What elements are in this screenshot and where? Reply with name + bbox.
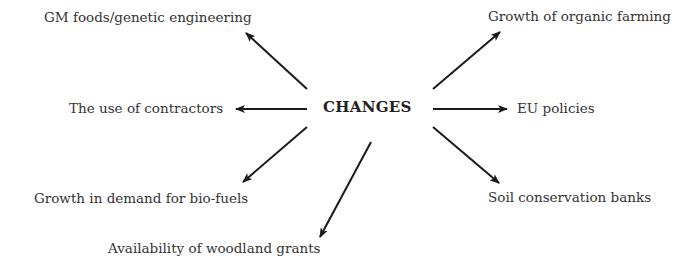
node-contractors: The use of contractors	[69, 102, 223, 116]
arrow-to-organic	[433, 32, 500, 89]
node-gm-foods: GM foods/genetic engineering	[44, 11, 252, 25]
center-node-changes: CHANGES	[323, 100, 412, 115]
node-eu-policies: EU policies	[517, 102, 595, 116]
node-soil-conservation: Soil conservation banks	[488, 191, 651, 205]
node-bio-fuels: Growth in demand for bio-fuels	[34, 192, 248, 206]
node-organic-farming: Growth of organic farming	[488, 10, 671, 24]
node-woodland-grants: Availability of woodland grants	[108, 242, 321, 256]
arrow-to-gm	[246, 33, 307, 89]
arrow-to-biofuels	[243, 127, 307, 182]
arrow-to-woodland	[320, 142, 371, 237]
mind-map-diagram: CHANGES GM foods/genetic engineering The…	[0, 0, 700, 270]
arrows-layer	[0, 0, 700, 270]
arrow-to-soil	[433, 127, 499, 183]
